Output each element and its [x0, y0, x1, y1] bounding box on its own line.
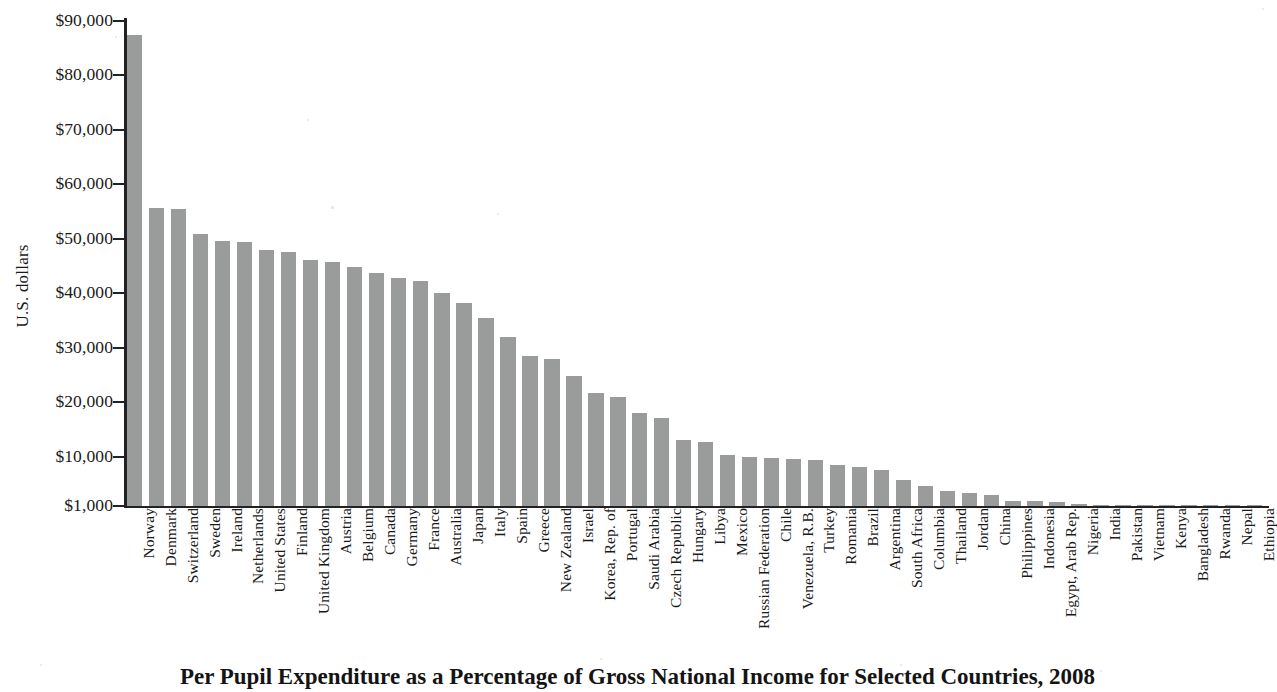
x-axis-category-label: Switzerland [185, 508, 201, 583]
bar [1159, 505, 1174, 507]
x-axis-category-label: Saudi Arabia [646, 508, 662, 590]
bar [193, 234, 208, 506]
bar [500, 337, 515, 506]
scan-speckle [600, 658, 602, 660]
bar [1049, 502, 1064, 506]
x-axis-category-label: Pakistan [1129, 508, 1145, 561]
x-axis-category-label: Chile [778, 508, 794, 542]
bar [391, 278, 406, 506]
bar [1181, 505, 1196, 507]
x-axis-category-label: Rwanda [1217, 508, 1233, 559]
x-axis-category-labels: NorwayDenmarkSwitzerlandSwedenIrelandNet… [127, 508, 1269, 658]
x-axis-category-label: Romania [843, 508, 859, 565]
scan-speckle [115, 36, 117, 38]
x-axis-category-label: Bangladesh [1195, 508, 1211, 581]
x-axis-category-label: Korea, Rep. of [602, 508, 618, 601]
x-axis-category-label: Mexico [734, 508, 750, 556]
x-axis-category-label: Thailand [953, 508, 969, 564]
bar [259, 250, 274, 506]
x-axis-category-label: Russian Federation [756, 508, 772, 629]
bar [566, 376, 581, 506]
bar [347, 267, 362, 506]
x-axis-category-label: China [997, 508, 1013, 546]
y-axis-tick-mark [113, 20, 124, 22]
y-axis-tick-label: $1,000 [13, 497, 113, 515]
bar [127, 35, 142, 506]
bar [764, 458, 779, 507]
x-axis-category-label: Jordan [975, 508, 991, 550]
x-axis-category-label: Venezuela, R.B. [800, 508, 816, 609]
y-axis-tick-label: $30,000 [13, 339, 113, 357]
x-axis-category-label: Ireland [229, 508, 245, 553]
y-axis-tick-mark [113, 505, 124, 507]
scan-speckle [497, 213, 499, 215]
x-axis-category-label: Belgium [360, 508, 376, 562]
bar [522, 356, 537, 506]
x-axis-category-label: Egypt, Arab Rep. [1063, 508, 1079, 617]
x-axis-category-label: United Kingdom [316, 508, 332, 614]
x-axis-category-label: Vietnam [1151, 508, 1167, 561]
bar [1027, 501, 1042, 506]
bar [369, 273, 384, 506]
x-axis-category-label: Indonesia [1041, 508, 1057, 569]
x-axis-category-label: Norway [141, 508, 157, 559]
bar [610, 397, 625, 506]
x-axis-category-label: Argentina [887, 508, 903, 571]
y-axis-tick-label: $50,000 [13, 230, 113, 248]
x-axis-category-label: Columbia [931, 508, 947, 570]
bar [962, 493, 977, 506]
scan-speckle [1100, 670, 1102, 672]
x-axis-category-label: Spain [514, 508, 530, 544]
x-axis-category-label: Austria [338, 508, 354, 554]
plot-area [127, 18, 1269, 506]
bar [478, 318, 493, 506]
x-axis-category-label: Greece [536, 508, 552, 552]
y-axis-tick-label: $60,000 [13, 175, 113, 193]
scan-speckle [40, 664, 42, 666]
x-axis-category-label: Germany [404, 508, 420, 566]
bar [1203, 505, 1218, 507]
x-axis-category-label: Denmark [163, 508, 179, 566]
figure-caption-text: Per Pupil Expenditure as a Percentage of… [0, 668, 1275, 690]
bar [171, 209, 186, 506]
bar [303, 260, 318, 506]
x-axis-category-label: Hungary [690, 508, 706, 563]
y-axis-tick-label: $80,000 [13, 66, 113, 84]
x-axis-category-label: Czech Republic [668, 508, 684, 608]
x-axis-category-label: Libya [712, 508, 728, 545]
bar [632, 413, 647, 506]
y-axis-tick-mark [113, 74, 124, 76]
x-axis-category-label: New Zealand [558, 508, 574, 592]
x-axis-category-label: India [1107, 508, 1123, 540]
x-axis-category-label: Canada [382, 508, 398, 555]
x-axis-category-label: Turkey [821, 508, 837, 553]
y-axis-tick-label: $40,000 [13, 284, 113, 302]
bar [237, 242, 252, 506]
scan-speckle [200, 672, 202, 674]
y-axis-tick-label: $10,000 [13, 448, 113, 466]
y-axis-tick-label: $20,000 [13, 393, 113, 411]
bar [1071, 504, 1086, 506]
bar [215, 241, 230, 506]
x-axis-category-label: Australia [448, 508, 464, 566]
bar [654, 418, 669, 506]
bar [281, 252, 296, 506]
bar [918, 486, 933, 506]
bar [874, 470, 889, 506]
bar [413, 281, 428, 506]
x-axis-category-label: Ethiopia [1261, 508, 1277, 561]
bar [676, 440, 691, 506]
x-axis-category-label: Italy [492, 508, 508, 537]
bar [1115, 505, 1130, 507]
y-axis-tick-label: $70,000 [13, 121, 113, 139]
bar [808, 460, 823, 506]
x-axis-category-label: Japan [470, 508, 486, 544]
bar [544, 359, 559, 506]
y-axis-tick-mark [113, 401, 124, 403]
x-axis-category-label: Finland [294, 508, 310, 556]
bar [1137, 505, 1152, 507]
y-axis-tick-labels: $90,000$80,000$70,000$60,000$50,000$40,0… [5, 0, 113, 520]
x-axis-category-label: United States [272, 508, 288, 592]
bar [786, 459, 801, 506]
